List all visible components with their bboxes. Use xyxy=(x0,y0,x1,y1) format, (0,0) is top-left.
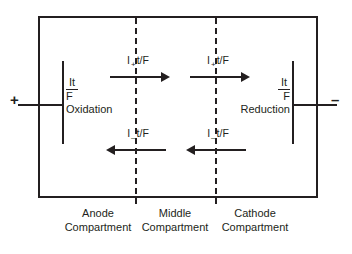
flux-expression: t/F xyxy=(137,54,149,66)
flux-cation-anode-to-middle: I+t/F xyxy=(106,55,170,82)
flux-label: I–t/F xyxy=(106,128,170,142)
membrane-anode-middle xyxy=(135,18,137,204)
flux-expression: t/F xyxy=(137,127,149,139)
arrow-right-icon xyxy=(186,72,250,82)
anode-electrode xyxy=(62,61,64,144)
flux-subscript: + xyxy=(130,60,137,69)
caption-line-2: Compartment xyxy=(200,221,310,235)
cathode-fraction: It F xyxy=(278,76,290,102)
flux-label: I–t/F xyxy=(186,128,250,142)
membrane-middle-cathode xyxy=(215,18,217,204)
cathode-fraction-numerator: It xyxy=(278,76,290,90)
caption-line-1: Cathode xyxy=(200,207,310,221)
negative-terminal-sign: – xyxy=(331,92,339,107)
flux-subscript: + xyxy=(210,60,217,69)
anode-reaction-label: Oxidation xyxy=(66,103,112,116)
cathode-electrode xyxy=(292,61,294,144)
cathode-fraction-denominator: F xyxy=(278,90,290,103)
anode-fraction: It F xyxy=(66,76,78,102)
anode-fraction-numerator: It xyxy=(66,76,78,90)
flux-cation-middle-to-cathode: I+t/F xyxy=(186,55,250,82)
cathode-reaction-label: Reduction xyxy=(232,103,290,116)
positive-terminal-sign: + xyxy=(10,92,19,107)
anode-fraction-denominator: F xyxy=(66,90,78,103)
caption-cathode-compartment: Cathode Compartment xyxy=(200,207,310,235)
flux-anion-cathode-to-middle: I–t/F xyxy=(186,128,250,155)
flux-anion-middle-to-anode: I–t/F xyxy=(106,128,170,155)
flux-label: I+t/F xyxy=(106,55,170,69)
flux-label: I+t/F xyxy=(186,55,250,69)
flux-expression: t/F xyxy=(217,54,229,66)
lead-wire-positive xyxy=(18,104,63,106)
flux-expression: t/F xyxy=(217,127,229,139)
electrolysis-cell-diagram: + – It F Oxidation It F Reduction I+t/F … xyxy=(0,0,352,254)
arrow-right-icon xyxy=(106,72,170,82)
arrow-left-icon xyxy=(106,145,170,155)
arrow-left-icon xyxy=(186,145,250,155)
